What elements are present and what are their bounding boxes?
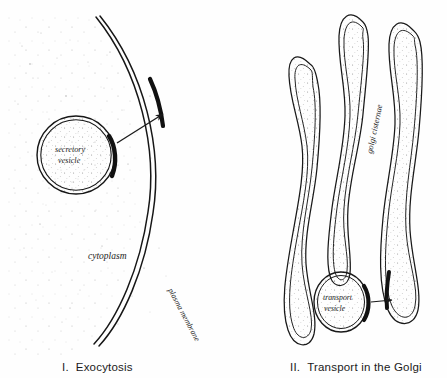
membrane-fusion-patch [150, 79, 163, 126]
transport-vesicle-label-line2: vesicle [324, 304, 346, 313]
figure-illustration: secretory vesicle cytoplasm plasma membr… [0, 0, 447, 378]
golgi-cisternae-label: golgi cisternae [365, 103, 384, 154]
caption-exocytosis-number: I. [62, 361, 69, 373]
secretory-vesicle-label-line1: secretory [55, 145, 86, 154]
golgi-cisterna-2 [328, 15, 369, 286]
caption-golgi-number: II. [290, 361, 300, 373]
transport-vesicle-label-line1: transport [323, 293, 353, 302]
caption-golgi-text: Transport in the Golgi [307, 361, 422, 373]
panel-exocytosis: secretory vesicle cytoplasm plasma membr… [0, 0, 230, 378]
panel-golgi: golgi cisternae transport vesicle [284, 15, 422, 345]
cytoplasm-label: cytoplasm [88, 251, 127, 261]
secretory-vesicle-label-line2: vesicle [58, 156, 81, 165]
plasma-membrane-label: plasma membrane [166, 286, 202, 343]
transport-vesicle [314, 272, 369, 332]
caption-golgi: II. Transport in the Golgi [290, 361, 422, 373]
secretory-vesicle [37, 116, 115, 194]
figure-root: secretory vesicle cytoplasm plasma membr… [0, 0, 447, 378]
caption-exocytosis: I. Exocytosis [62, 361, 133, 373]
caption-exocytosis-text: Exocytosis [76, 361, 133, 373]
cytoplasm-stipple [0, 0, 230, 378]
cisterna-acceptor-patch [387, 272, 389, 308]
